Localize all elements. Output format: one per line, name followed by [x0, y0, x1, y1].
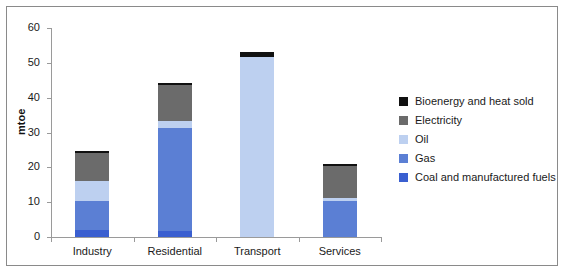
- bar-industry: [75, 151, 109, 237]
- bar-segment: [323, 198, 357, 201]
- y-axis-tick-label: 40: [28, 90, 40, 105]
- y-axis-title: mtoe: [15, 109, 27, 135]
- y-axis-tick: 50: [47, 63, 52, 64]
- y-axis-line: [51, 29, 52, 238]
- chart-figure: mtoe 0102030405060 IndustryResidentialTr…: [6, 6, 558, 266]
- bar-segment: [158, 83, 192, 85]
- x-axis-tick: [381, 237, 382, 242]
- legend-label: Gas: [415, 152, 435, 164]
- bar-segment: [240, 57, 274, 237]
- bar-segment: [75, 153, 109, 181]
- legend-item: Coal and manufactured fuels: [399, 169, 551, 185]
- bar-segment: [75, 201, 109, 230]
- x-axis-label-industry: Industry: [51, 245, 134, 257]
- y-axis-tick-label: 10: [28, 194, 40, 209]
- legend-item: Gas: [399, 150, 551, 166]
- y-axis-tick: 40: [47, 98, 52, 99]
- x-axis-label-transport: Transport: [216, 245, 299, 257]
- x-axis-tick: [51, 237, 52, 242]
- chart-legend: Bioenergy and heat soldElectricityOilGas…: [399, 93, 551, 188]
- y-axis-tick-label: 60: [28, 20, 40, 35]
- y-axis-tick: 10: [47, 202, 52, 203]
- bar-residential: [158, 83, 192, 237]
- legend-swatch-icon: [399, 116, 408, 125]
- bar-transport: [240, 52, 274, 237]
- legend-swatch-icon: [399, 173, 408, 182]
- x-axis-tick: [134, 237, 135, 242]
- y-axis-tick-label: 0: [34, 229, 40, 244]
- bar-segment: [158, 231, 192, 237]
- bar-services: [323, 164, 357, 237]
- legend-swatch-icon: [399, 97, 408, 106]
- legend-label: Electricity: [415, 114, 462, 126]
- legend-item: Bioenergy and heat sold: [399, 93, 551, 109]
- legend-label: Oil: [415, 133, 428, 145]
- bar-segment: [75, 230, 109, 237]
- y-axis-tick-label: 50: [28, 55, 40, 70]
- bar-segment: [323, 164, 357, 166]
- y-axis-tick: 20: [47, 167, 52, 168]
- x-axis-label-residential: Residential: [134, 245, 217, 257]
- bar-segment: [158, 128, 192, 231]
- x-axis-label-services: Services: [299, 245, 382, 257]
- bar-segment: [75, 181, 109, 201]
- bar-segment: [158, 121, 192, 128]
- bar-segment: [323, 166, 357, 198]
- legend-swatch-icon: [399, 135, 408, 144]
- legend-label: Bioenergy and heat sold: [415, 95, 534, 107]
- legend-swatch-icon: [399, 154, 408, 163]
- y-axis-tick: 30: [47, 133, 52, 134]
- y-axis-tick: 60: [47, 28, 52, 29]
- y-axis-tick-label: 30: [28, 125, 40, 140]
- x-axis-tick: [299, 237, 300, 242]
- bar-segment: [158, 85, 192, 121]
- x-axis-tick: [216, 237, 217, 242]
- legend-label: Coal and manufactured fuels: [415, 171, 556, 183]
- plot-area: 0102030405060 IndustryResidentialTranspo…: [51, 23, 381, 238]
- bar-segment: [323, 201, 357, 237]
- bar-segment: [240, 52, 274, 56]
- y-axis-tick-label: 20: [28, 159, 40, 174]
- legend-item: Electricity: [399, 112, 551, 128]
- bar-segment: [75, 151, 109, 153]
- legend-item: Oil: [399, 131, 551, 147]
